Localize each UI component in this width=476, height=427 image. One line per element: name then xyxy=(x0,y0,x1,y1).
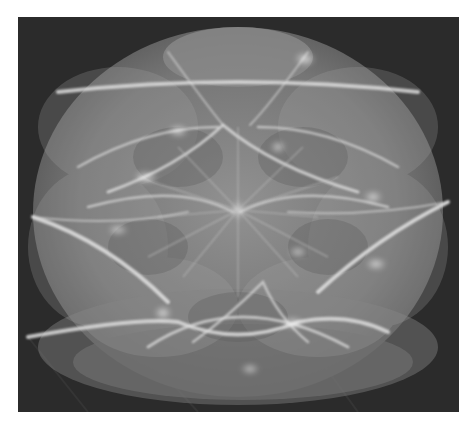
photograph xyxy=(18,17,459,412)
caustic-sphere-image xyxy=(18,17,459,412)
figure-caption xyxy=(80,419,400,427)
